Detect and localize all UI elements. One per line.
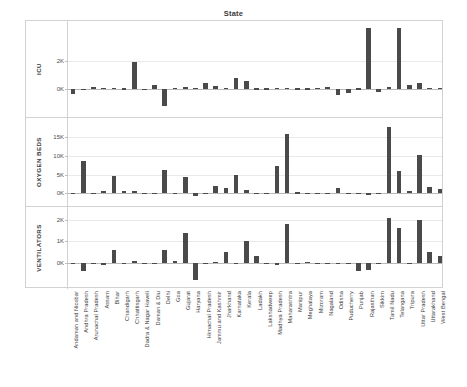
bar[interactable] xyxy=(315,263,320,264)
bar[interactable] xyxy=(325,193,330,194)
bar[interactable] xyxy=(203,263,208,264)
bar[interactable] xyxy=(407,263,412,264)
bar[interactable] xyxy=(295,263,300,264)
bar[interactable] xyxy=(244,190,249,193)
bar[interactable] xyxy=(91,87,96,89)
bar[interactable] xyxy=(112,250,117,264)
bar[interactable] xyxy=(152,193,157,194)
bar[interactable] xyxy=(254,193,259,194)
bar[interactable] xyxy=(244,241,249,263)
bar[interactable] xyxy=(183,177,188,193)
bar[interactable] xyxy=(356,193,361,194)
bar[interactable] xyxy=(142,193,147,194)
bar[interactable] xyxy=(285,134,290,194)
bar[interactable] xyxy=(71,89,76,94)
bar[interactable] xyxy=(438,256,443,263)
bar[interactable] xyxy=(203,83,208,88)
bar[interactable] xyxy=(91,263,96,264)
bar[interactable] xyxy=(234,175,239,193)
bar[interactable] xyxy=(285,224,290,263)
bar[interactable] xyxy=(417,83,422,89)
bar[interactable] xyxy=(275,263,280,264)
bar[interactable] xyxy=(213,262,218,263)
bar[interactable] xyxy=(173,261,178,263)
bar[interactable] xyxy=(305,262,310,264)
bar[interactable] xyxy=(438,189,443,193)
bar[interactable] xyxy=(325,263,330,264)
bar[interactable] xyxy=(366,28,371,88)
bar[interactable] xyxy=(244,81,249,88)
bar[interactable] xyxy=(376,193,381,194)
bar[interactable] xyxy=(407,191,412,193)
bar[interactable] xyxy=(142,89,147,90)
bar[interactable] xyxy=(387,87,392,89)
bar[interactable] xyxy=(427,252,432,263)
bar[interactable] xyxy=(397,171,402,193)
bar[interactable] xyxy=(132,261,137,264)
bar[interactable] xyxy=(71,263,76,264)
bar[interactable] xyxy=(387,218,392,263)
bar[interactable] xyxy=(112,176,117,193)
bar[interactable] xyxy=(356,88,361,89)
bar[interactable] xyxy=(213,86,218,88)
bar[interactable] xyxy=(366,193,371,195)
bar[interactable] xyxy=(81,89,86,90)
bar[interactable] xyxy=(376,263,381,264)
bar[interactable] xyxy=(122,191,127,193)
bar[interactable] xyxy=(376,89,381,93)
bar[interactable] xyxy=(397,228,402,263)
bar[interactable] xyxy=(254,88,259,89)
bar[interactable] xyxy=(336,89,341,96)
bar[interactable] xyxy=(427,88,432,89)
bar[interactable] xyxy=(183,233,188,264)
bar[interactable] xyxy=(295,88,300,89)
bar[interactable] xyxy=(122,263,127,264)
bar[interactable] xyxy=(427,187,432,194)
bar[interactable] xyxy=(91,193,96,194)
bar[interactable] xyxy=(193,88,198,89)
bar[interactable] xyxy=(397,28,402,88)
bar[interactable] xyxy=(305,88,310,89)
bar[interactable] xyxy=(173,88,178,89)
bar[interactable] xyxy=(336,188,341,193)
bar[interactable] xyxy=(152,85,157,88)
bar[interactable] xyxy=(162,170,167,193)
bar[interactable] xyxy=(315,88,320,89)
bar[interactable] xyxy=(264,193,269,194)
bar[interactable] xyxy=(162,250,167,264)
bar[interactable] xyxy=(81,263,86,270)
bar[interactable] xyxy=(264,88,269,89)
bar[interactable] xyxy=(224,188,229,193)
bar[interactable] xyxy=(234,78,239,89)
bar[interactable] xyxy=(101,191,106,194)
bar[interactable] xyxy=(325,87,330,88)
bar[interactable] xyxy=(152,263,157,264)
bar[interactable] xyxy=(315,193,320,194)
bar[interactable] xyxy=(264,263,269,264)
bar[interactable] xyxy=(183,87,188,89)
bar[interactable] xyxy=(132,191,137,193)
bar[interactable] xyxy=(112,88,117,89)
bar[interactable] xyxy=(275,88,280,89)
bar[interactable] xyxy=(285,88,290,89)
bar[interactable] xyxy=(71,193,76,194)
bar[interactable] xyxy=(387,127,392,193)
bar[interactable] xyxy=(213,186,218,193)
bar[interactable] xyxy=(356,263,361,270)
bar[interactable] xyxy=(295,192,300,193)
bar[interactable] xyxy=(162,89,167,107)
bar[interactable] xyxy=(346,89,351,94)
bar[interactable] xyxy=(254,256,259,263)
bar[interactable] xyxy=(173,193,178,194)
bar[interactable] xyxy=(234,263,239,264)
bar[interactable] xyxy=(438,88,443,89)
bar[interactable] xyxy=(142,263,147,264)
bar[interactable] xyxy=(122,88,127,89)
bar[interactable] xyxy=(224,88,229,89)
bar[interactable] xyxy=(81,161,86,193)
bar[interactable] xyxy=(101,88,106,89)
bar[interactable] xyxy=(224,252,229,263)
bar[interactable] xyxy=(193,263,198,279)
bar[interactable] xyxy=(203,193,208,194)
bar[interactable] xyxy=(346,263,351,264)
